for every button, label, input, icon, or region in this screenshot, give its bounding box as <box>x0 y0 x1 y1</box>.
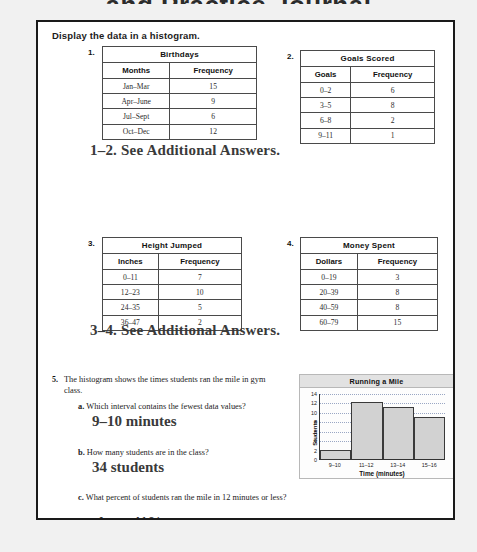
table-row: 6–8 2 <box>301 113 435 128</box>
chart-y-tick: 8 <box>309 419 318 425</box>
page-header-title: and Practice Journal <box>0 0 477 4</box>
table-cell: 9 <box>170 94 257 109</box>
table-row: 24–35 5 <box>103 300 242 315</box>
problem-number-1: 1. <box>88 48 95 57</box>
part-label-c: c. <box>78 493 84 502</box>
table-cell: 0–11 <box>103 270 159 285</box>
table-cell: Jan–Mar <box>103 79 170 94</box>
answer-3-4: 3–4. See Additional Answers. <box>90 322 280 339</box>
table-cell: 15 <box>170 79 257 94</box>
chart-bar <box>351 402 382 459</box>
table-row: 9–11 1 <box>301 128 435 143</box>
chart-y-tick: 4 <box>309 438 318 444</box>
chart-x-tick: 13–14 <box>382 462 414 468</box>
problem-number-4: 4. <box>287 239 294 248</box>
chart-y-tick: 2 <box>309 448 318 454</box>
table-cell: 3–5 <box>301 98 351 113</box>
table-cell: Apr–June <box>103 94 170 109</box>
table-cell: 7 <box>158 270 241 285</box>
part-question-b: How many students are in the class? <box>87 448 209 457</box>
table-cell: 6 <box>170 109 257 124</box>
table-row: Oct–Dec 12 <box>103 124 257 139</box>
chart-bar <box>320 450 351 459</box>
worksheet-panel: Display the data in a histogram. 1. Birt… <box>36 20 455 520</box>
table-col-header: Goals <box>301 67 351 83</box>
data-table-birthdays: Birthdays Months Frequency Jan–Mar 15 Ap… <box>102 46 257 140</box>
table-title: Money Spent <box>301 238 438 254</box>
table-cell: 60–79 <box>301 315 358 330</box>
problem-5-prompt: The histogram shows the times students r… <box>64 374 279 396</box>
chart-bar <box>383 407 414 459</box>
problem-5-part-a: a. Which interval contains the fewest da… <box>78 401 293 412</box>
table-cell: 8 <box>351 98 435 113</box>
table-cell: 9–11 <box>301 128 351 143</box>
instruction-text: Display the data in a histogram. <box>52 30 200 41</box>
problem-number-5: 5. <box>52 375 58 384</box>
table-cell: 2 <box>351 113 435 128</box>
chart-title: Running a Mile <box>300 375 453 388</box>
table-title: Height Jumped <box>103 238 242 254</box>
problem-number-3: 3. <box>88 239 95 248</box>
table-cell: 6–8 <box>301 113 351 128</box>
table-cell: 10 <box>158 285 241 300</box>
problem-number-2: 2. <box>287 52 294 61</box>
chart-plot <box>319 394 445 460</box>
table-cell: 15 <box>357 315 437 330</box>
table-cell: 12 <box>170 124 257 139</box>
data-table-money-spent: Money Spent Dollars Frequency 0–19 3 20–… <box>300 237 438 331</box>
problem-5-part-b: b. How many students are in the class? <box>78 447 293 458</box>
table-row: 3–5 8 <box>301 98 435 113</box>
problem-5-part-c: c. What percent of students ran the mile… <box>78 492 293 503</box>
chart-x-tick: 9–10 <box>319 462 351 468</box>
chart-bars <box>320 394 445 459</box>
data-table-goals-scored: Goals Scored Goals Frequency 0–2 6 3–5 8… <box>300 50 435 144</box>
chart-x-axis-label: Time (minutes) <box>319 470 445 477</box>
table-cell: 24–35 <box>103 300 159 315</box>
table-col-header: Frequency <box>158 254 241 270</box>
chart-y-tick: 0 <box>309 457 318 463</box>
chart-bar <box>414 417 445 459</box>
table-cell: 5 <box>158 300 241 315</box>
table-row: Apr–June 9 <box>103 94 257 109</box>
table-cell: 12–23 <box>103 285 159 300</box>
table-cell: 0–2 <box>301 83 351 98</box>
table-row: 20–39 8 <box>301 285 438 300</box>
histogram-chart: Running a Mile Students 02468101214 9–10… <box>299 374 454 479</box>
table-row: Jan–Mar 15 <box>103 79 257 94</box>
chart-y-ticks: 02468101214 <box>309 394 318 460</box>
table-row: Jul–Sept 6 <box>103 109 257 124</box>
chart-y-tick: 6 <box>309 429 318 435</box>
chart-y-tick: 12 <box>309 400 318 406</box>
chart-x-tick: 11–12 <box>351 462 383 468</box>
table-col-header: Inches <box>103 254 159 270</box>
table-row: 0–19 3 <box>301 270 438 285</box>
table-cell: 40–59 <box>301 300 358 315</box>
table-cell: Jul–Sept <box>103 109 170 124</box>
table-cell: 3 <box>357 270 437 285</box>
problem-5-answer-b: 34 students <box>92 459 164 476</box>
chart-y-tick: 10 <box>309 410 318 416</box>
table-cell: 0–19 <box>301 270 358 285</box>
part-label-a: a. <box>78 402 84 411</box>
table-col-header: Frequency <box>170 63 257 79</box>
part-question-c: What percent of students ran the mile in… <box>86 493 287 502</box>
table-row: 60–79 15 <box>301 315 438 330</box>
chart-x-tick: 15–16 <box>414 462 446 468</box>
chart-plot-area: Students 02468101214 9–1011–1213–1415–16… <box>300 388 453 478</box>
table-cell: Oct–Dec <box>103 124 170 139</box>
table-row: 12–23 10 <box>103 285 242 300</box>
chart-x-ticks: 9–1011–1213–1415–16 <box>319 462 445 468</box>
table-title: Birthdays <box>103 47 257 63</box>
chart-y-tick: 14 <box>309 391 318 397</box>
table-row: 40–59 8 <box>301 300 438 315</box>
table-cell: 8 <box>357 300 437 315</box>
table-col-header: Months <box>103 63 170 79</box>
table-col-header: Frequency <box>351 67 435 83</box>
problem-5-answer-c: about 41% <box>92 514 162 520</box>
part-label-b: b. <box>78 448 85 457</box>
table-cell: 8 <box>357 285 437 300</box>
problem-5-answer-a: 9–10 minutes <box>92 413 177 430</box>
table-row: 0–11 7 <box>103 270 242 285</box>
table-row: 0–2 6 <box>301 83 435 98</box>
table-cell: 20–39 <box>301 285 358 300</box>
